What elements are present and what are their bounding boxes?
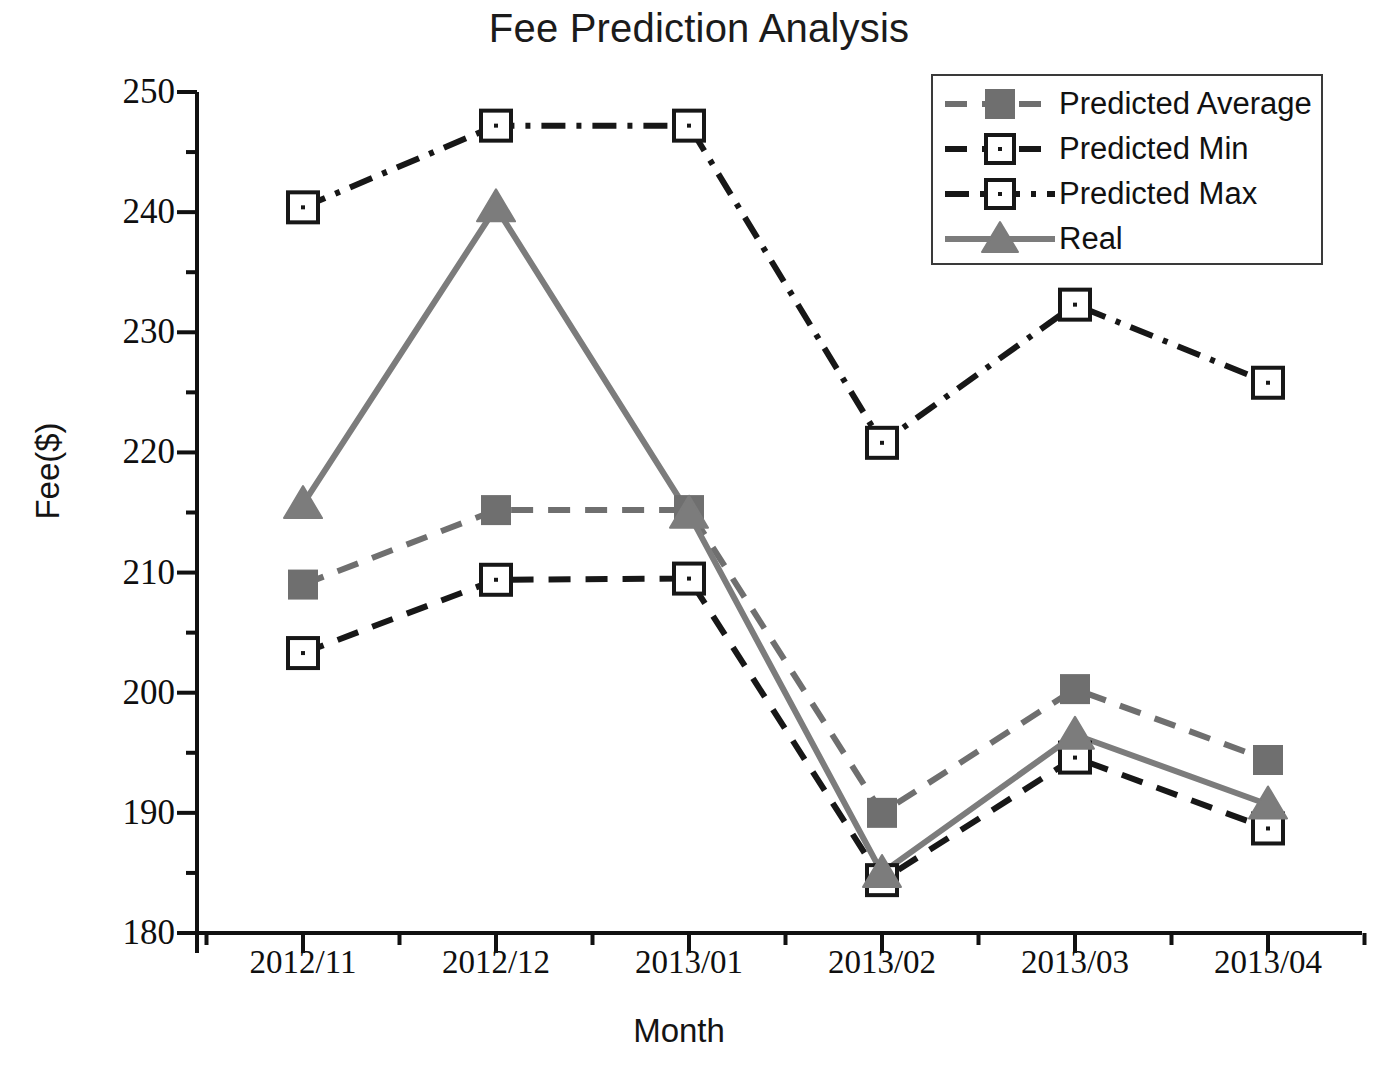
data-point-marker-dot xyxy=(301,205,305,209)
data-point-marker xyxy=(1056,717,1094,749)
legend: Predicted AveragePredicted MinPredicted … xyxy=(931,74,1323,265)
legend-sample-icon xyxy=(941,174,1059,214)
data-point-marker xyxy=(868,799,896,827)
series-line-predicted-min xyxy=(303,579,1268,881)
legend-item-label: Real xyxy=(1059,221,1123,257)
data-point-marker-dot xyxy=(880,441,884,445)
data-point-marker-dot xyxy=(1266,826,1270,830)
legend-item-predicted-average[interactable]: Predicted Average xyxy=(941,82,1317,126)
legend-item-label: Predicted Max xyxy=(1059,176,1257,212)
data-point-marker xyxy=(1254,746,1282,774)
data-point-marker-dot xyxy=(687,124,691,128)
data-point-marker xyxy=(284,486,322,518)
data-point-marker-dot xyxy=(1073,303,1077,307)
data-point-marker-dot xyxy=(494,124,498,128)
data-point-marker xyxy=(1061,675,1089,703)
data-point-marker xyxy=(477,189,515,221)
chart-container: Fee Prediction Analysis Fee($) Month 180… xyxy=(0,0,1398,1077)
legend-sample-icon xyxy=(941,129,1059,169)
data-point-marker xyxy=(289,571,317,599)
legend-sample-icon xyxy=(941,84,1059,124)
data-point-marker-dot xyxy=(1266,381,1270,385)
legend-item-predicted-max[interactable]: Predicted Max xyxy=(941,172,1317,216)
legend-item-label: Predicted Min xyxy=(1059,131,1249,167)
legend-sample-icon xyxy=(941,219,1059,259)
data-point-marker-dot xyxy=(494,578,498,582)
data-point-marker-dot xyxy=(687,577,691,581)
data-point-marker-dot xyxy=(301,651,305,655)
legend-item-predicted-min[interactable]: Predicted Min xyxy=(941,127,1317,171)
legend-item-label: Predicted Average xyxy=(1059,86,1312,122)
legend-item-real[interactable]: Real xyxy=(941,217,1317,261)
data-point-marker-dot xyxy=(1073,756,1077,760)
series-line-predicted-average xyxy=(303,510,1268,813)
data-point-marker xyxy=(482,496,510,524)
